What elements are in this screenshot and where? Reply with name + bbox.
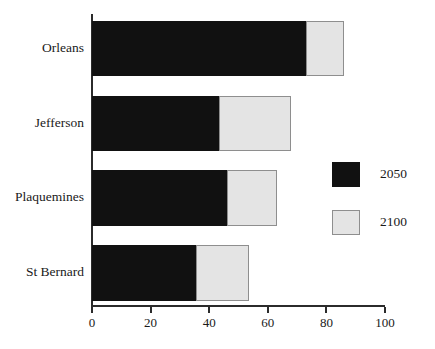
x-tick-label-0: 0 bbox=[72, 315, 112, 330]
bar-segment-2050 bbox=[92, 21, 306, 76]
bar-row bbox=[92, 170, 277, 226]
bar-row bbox=[92, 245, 249, 301]
bar-row bbox=[92, 21, 344, 76]
x-tick-label-20: 20 bbox=[131, 315, 171, 330]
bar-segment-2100 bbox=[227, 170, 277, 226]
category-label-jefferson: Jefferson bbox=[0, 115, 84, 131]
category-label-orleans: Orleans bbox=[0, 40, 84, 56]
bar-segment-2050 bbox=[92, 96, 219, 151]
x-tick-40 bbox=[208, 307, 210, 313]
bar-row bbox=[92, 96, 291, 151]
legend-entry-2050[interactable]: 2050 bbox=[332, 162, 432, 189]
x-tick-20 bbox=[150, 307, 152, 313]
legend-entry-2100[interactable]: 2100 bbox=[332, 210, 432, 237]
x-tick-0 bbox=[91, 307, 93, 313]
x-tick-label-60: 60 bbox=[248, 315, 288, 330]
x-tick-60 bbox=[267, 307, 269, 313]
legend-label-2100: 2100 bbox=[380, 214, 407, 230]
x-tick-100 bbox=[384, 307, 386, 313]
category-label-plaquemines: Plaquemines bbox=[0, 189, 84, 205]
category-label-st-bernard: St Bernard bbox=[0, 264, 84, 280]
legend-label-2050: 2050 bbox=[380, 166, 407, 182]
bar-segment-2100 bbox=[219, 96, 291, 151]
x-tick-label-80: 80 bbox=[306, 315, 346, 330]
x-axis-line bbox=[91, 305, 385, 307]
x-tick-80 bbox=[325, 307, 327, 313]
bar-segment-2050 bbox=[92, 170, 227, 226]
plot-area: 020406080100 OrleansJeffersonPlaquemines… bbox=[0, 0, 435, 349]
x-tick-label-100: 100 bbox=[365, 315, 405, 330]
black-swatch-icon bbox=[332, 162, 360, 187]
bar-segment-2100 bbox=[196, 245, 249, 301]
bar-segment-2050 bbox=[92, 245, 196, 301]
stacked-bar-chart: 020406080100 OrleansJeffersonPlaquemines… bbox=[0, 0, 435, 349]
x-tick-label-40: 40 bbox=[189, 315, 229, 330]
chart-legend: 20502100 bbox=[332, 162, 432, 240]
light-gray-swatch-icon bbox=[332, 210, 360, 235]
bar-segment-2100 bbox=[306, 21, 344, 76]
